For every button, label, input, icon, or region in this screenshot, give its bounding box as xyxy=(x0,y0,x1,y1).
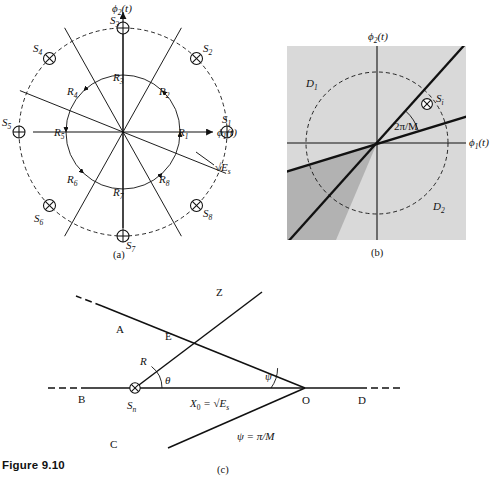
panel-c-geometry: Z A E B C O D R θ ψ Sn X0 = √Es ψ = π/M … xyxy=(40,268,460,453)
svg-text:S6: S6 xyxy=(34,212,44,227)
panel-c-ray-z xyxy=(135,292,262,388)
figure-caption: Figure 9.10 xyxy=(2,459,65,471)
panel-c-label-o: O xyxy=(302,394,310,406)
svg-text:R2: R2 xyxy=(158,85,170,100)
panel-a-signal-labels: S1 S2 S3 S4 S5 S6 S7 S8 xyxy=(2,14,231,254)
signal-label-s3-sub: 3 xyxy=(115,20,120,29)
panel-a-constellation: S1 S2 S3 S4 S5 S6 S7 S8 xyxy=(0,0,258,262)
svg-text:R5: R5 xyxy=(53,126,65,141)
svg-text:R6: R6 xyxy=(66,173,78,188)
panel-b-axis-label-vertical: ϕ2(t) xyxy=(368,30,388,45)
panel-c-signal-label: Sn xyxy=(127,399,137,414)
panel-c-label-d: D xyxy=(358,394,366,406)
panel-a-caption: (a) xyxy=(113,249,125,261)
panel-c-angle-theta-label: θ xyxy=(165,374,171,386)
panel-b-decision-regions: Si D1 D2 2π/M ϕ2(t) ϕ1(t) (b) xyxy=(250,10,490,260)
signal-marker-s8 xyxy=(191,200,203,212)
panel-b-caption: (b) xyxy=(371,247,384,259)
panel-c-angle-psi-arc xyxy=(271,368,278,388)
signal-label-s6-sub: 6 xyxy=(40,218,44,227)
signal-marker-s2 xyxy=(191,53,203,65)
region-label-r8-sub: 8 xyxy=(166,179,170,188)
panel-a-radius-leader xyxy=(196,152,214,165)
region-label-r6-sub: 6 xyxy=(74,179,78,188)
panel-c-note: ψ = π/M xyxy=(237,430,275,442)
svg-text:S7: S7 xyxy=(126,239,136,254)
panel-b-angle-label: 2π/M xyxy=(394,120,418,132)
panel-c-label-b: B xyxy=(78,393,85,405)
svg-text:R3: R3 xyxy=(112,71,124,86)
svg-text:R4: R4 xyxy=(66,85,78,100)
signal-label-s8-sub: 8 xyxy=(209,213,213,222)
panel-c-label-e: E xyxy=(165,330,172,342)
signal-label-s4-sub: 4 xyxy=(39,48,43,57)
region-label-r7-sub: 7 xyxy=(120,192,124,201)
panel-c-caption: (c) xyxy=(217,464,229,476)
svg-text:S5: S5 xyxy=(2,116,12,131)
svg-text:S8: S8 xyxy=(203,207,213,222)
panel-c-ray-label: R xyxy=(139,355,147,367)
panel-c-angle-theta-arc xyxy=(152,367,163,389)
panel-a-radius-label: √Es xyxy=(215,161,231,176)
panel-c-label-a: A xyxy=(116,323,124,335)
panel-c-signal-marker-sn xyxy=(130,383,140,393)
svg-text:R7: R7 xyxy=(112,186,124,201)
region-label-r3-sub: 3 xyxy=(119,77,124,86)
region-label-r2-sub: 2 xyxy=(166,91,170,100)
signal-marker-s6 xyxy=(44,200,56,212)
region-label-r4-sub: 4 xyxy=(74,91,78,100)
signal-label-s2-sub: 2 xyxy=(209,48,213,57)
svg-text:S2: S2 xyxy=(203,42,213,57)
svg-text:S4: S4 xyxy=(33,42,43,57)
region-label-r5-sub: 5 xyxy=(61,132,65,141)
signal-label-s5-sub: 5 xyxy=(8,122,12,131)
panel-c-distance-label: X0 = √Es xyxy=(189,397,229,412)
figure-9-10: S1 S2 S3 S4 S5 S6 S7 S8 xyxy=(0,0,503,480)
signal-label-s7-sub: 7 xyxy=(132,245,136,254)
signal-marker-s5 xyxy=(13,126,25,138)
panel-c-angle-psi-label: ψ xyxy=(265,370,272,382)
panel-c-label-z: Z xyxy=(216,286,223,298)
region-label-r1-sub: 1 xyxy=(185,132,189,141)
panel-c-label-c: C xyxy=(110,438,117,450)
panel-b-axis-label-horizontal: ϕ1(t) xyxy=(469,136,489,151)
panel-b-signal-marker-si xyxy=(422,99,433,110)
signal-marker-s4 xyxy=(44,53,56,65)
svg-text:R1: R1 xyxy=(177,126,188,141)
svg-text:R8: R8 xyxy=(158,173,170,188)
